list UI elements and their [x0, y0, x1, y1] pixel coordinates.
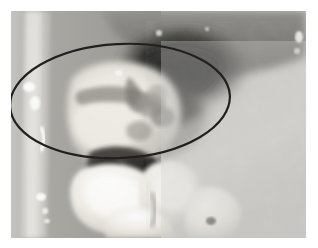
clinical-photograph: [11, 11, 306, 238]
global-tone-overlay: [11, 11, 306, 238]
screenshot-root: [0, 0, 318, 248]
photo-caption: [11, 240, 306, 248]
photograph-canvas: [11, 11, 306, 238]
